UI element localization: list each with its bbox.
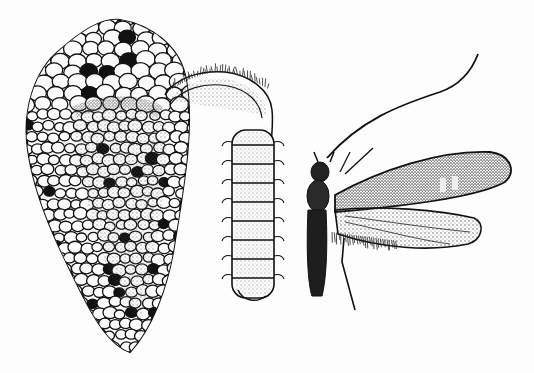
stone: [185, 342, 198, 353]
stone: [181, 220, 192, 230]
stone: [65, 165, 77, 175]
stone: [64, 21, 80, 35]
stone: [191, 329, 203, 339]
stone: [179, 308, 192, 319]
stone: [16, 330, 26, 339]
stone: [42, 231, 53, 240]
stone: [180, 242, 192, 253]
stone: [176, 189, 187, 199]
stone: [28, 286, 39, 296]
stone: [178, 329, 192, 341]
stone: [191, 134, 202, 143]
stone: [137, 10, 155, 25]
stone: [38, 307, 52, 319]
larva-gill: [222, 275, 232, 280]
stone: [180, 112, 191, 121]
stone: [185, 276, 198, 287]
stone: [80, 263, 93, 274]
stone: [185, 166, 196, 175]
stone: [19, 188, 33, 200]
stone: [17, 242, 29, 252]
thorax: [307, 180, 329, 212]
stone: [164, 19, 182, 34]
stone: [193, 354, 204, 364]
stone: [114, 310, 125, 319]
larva-gill: [274, 256, 284, 261]
stone: [14, 20, 31, 34]
illustration: [0, 0, 534, 373]
stone: [192, 285, 205, 296]
larva-gill: [274, 142, 284, 147]
stone: [21, 210, 34, 221]
stone: [174, 142, 188, 154]
stone: [107, 342, 120, 353]
stone: [185, 231, 199, 243]
bristle: [220, 65, 221, 72]
stone: [87, 318, 98, 328]
bristle: [200, 67, 201, 76]
stone: [190, 155, 202, 165]
stone: [190, 109, 203, 120]
front-leg: [345, 148, 373, 174]
stone: [32, 122, 43, 132]
stone: [187, 209, 198, 218]
stone: [173, 274, 187, 286]
stone: [143, 341, 154, 350]
stone: [36, 263, 49, 274]
stone: [37, 132, 48, 141]
stone: [119, 73, 137, 89]
stone: [38, 329, 49, 339]
larva-gill: [222, 218, 232, 223]
stone: [147, 351, 159, 362]
stone: [171, 31, 187, 45]
stone: [29, 40, 47, 55]
hindwing: [335, 208, 481, 248]
stone: [75, 342, 88, 353]
stone: [147, 332, 158, 342]
stone: [163, 186, 175, 196]
stone: [33, 321, 44, 330]
stone: [75, 320, 85, 329]
forewing: [335, 152, 511, 212]
stone: [52, 320, 64, 330]
stone: [19, 295, 33, 307]
stone: [169, 198, 180, 207]
antenna: [327, 54, 478, 158]
stone: [47, 108, 60, 119]
stone: [151, 319, 164, 330]
stone: [34, 29, 52, 45]
stone: [156, 9, 173, 23]
stone: [158, 220, 168, 229]
stone: [169, 354, 180, 363]
stone: [192, 175, 205, 186]
stone: [164, 340, 176, 350]
illustration-svg: [0, 0, 534, 373]
stone: [192, 309, 204, 319]
stone: [38, 287, 49, 296]
stone: [104, 331, 114, 340]
stone: [151, 343, 163, 354]
larva-gill: [274, 180, 284, 185]
stone: [157, 308, 170, 319]
stone: [37, 220, 48, 229]
stone: [29, 231, 43, 243]
stone: [176, 297, 187, 307]
stone: [59, 352, 71, 362]
larva-gill: [222, 180, 232, 185]
stone: [19, 275, 33, 287]
stone: [12, 85, 31, 101]
stone: [49, 332, 60, 342]
stone: [187, 297, 198, 307]
stone: [69, 176, 81, 186]
stone: [37, 243, 47, 252]
stone: [184, 254, 197, 265]
stone: [102, 354, 114, 364]
stone: [73, 207, 87, 219]
stone: [26, 241, 38, 251]
stone: [164, 299, 174, 308]
stone: [25, 175, 37, 185]
bristle: [256, 77, 257, 83]
stone: [46, 20, 63, 34]
stone: [48, 175, 60, 185]
stone: [29, 20, 47, 36]
